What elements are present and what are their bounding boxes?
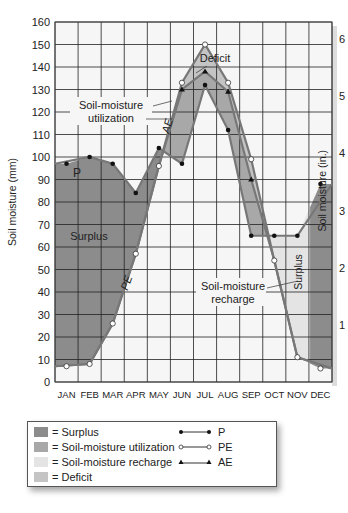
- p-marker: [64, 161, 69, 166]
- svg-text:160: 160: [32, 16, 50, 28]
- pe-marker: [202, 42, 207, 47]
- svg-text:150: 150: [32, 39, 50, 51]
- svg-text:3: 3: [339, 205, 345, 217]
- svg-text:100: 100: [32, 151, 50, 163]
- legend-item-pe: PE: [178, 440, 233, 454]
- svg-text:70: 70: [38, 219, 50, 231]
- svg-text:20: 20: [38, 331, 50, 343]
- svg-text:JUN: JUN: [173, 389, 192, 400]
- legend-item-utilization: = Soil-moisture utilization: [34, 440, 175, 454]
- svg-text:SEP: SEP: [242, 389, 261, 400]
- legend-item-ae: AE: [178, 455, 233, 469]
- svg-text:1: 1: [339, 319, 345, 331]
- svg-text:FEB: FEB: [80, 389, 98, 400]
- p-marker: [203, 83, 208, 88]
- y-axis-right-label: Soil moisture (in.): [316, 150, 328, 232]
- triangle-line-icon: [178, 458, 212, 466]
- legend-label: AE: [218, 456, 233, 468]
- legend-label: PE: [218, 441, 233, 453]
- svg-text:6: 6: [339, 33, 345, 45]
- water-budget-chart: 0102030405060708090100110120130140150160…: [0, 0, 348, 420]
- pe-marker: [64, 364, 69, 369]
- y-axis-label: Soil moisture (mm): [6, 158, 18, 246]
- legend-item-p: P: [178, 425, 225, 439]
- svg-text:60: 60: [38, 241, 50, 253]
- p-marker: [249, 233, 254, 238]
- svg-text:130: 130: [32, 84, 50, 96]
- utilization-swatch: [34, 442, 48, 452]
- p-marker: [295, 233, 300, 238]
- recharge-swatch: [34, 457, 48, 467]
- svg-text:120: 120: [32, 106, 50, 118]
- legend-label: P: [218, 426, 225, 438]
- pe-marker: [87, 361, 92, 366]
- p-marker: [133, 191, 138, 196]
- legend-item-surplus: = Surplus: [34, 425, 99, 439]
- p-marker: [272, 233, 277, 238]
- deficit-swatch: [34, 472, 48, 482]
- annotation: P: [73, 166, 81, 180]
- annotation: Soil-moisture: [201, 280, 265, 292]
- pe-marker: [318, 366, 323, 371]
- pe-marker: [179, 80, 184, 85]
- svg-text:5: 5: [339, 90, 345, 102]
- pe-marker: [226, 80, 231, 85]
- svg-text:90: 90: [38, 174, 50, 186]
- surplus-swatch: [34, 427, 48, 437]
- p-marker: [157, 146, 162, 151]
- svg-text:0: 0: [44, 376, 50, 388]
- pe-marker: [272, 258, 277, 263]
- pe-marker: [133, 251, 138, 256]
- svg-text:MAY: MAY: [149, 389, 170, 400]
- svg-text:MAR: MAR: [102, 389, 123, 400]
- svg-text:140: 140: [32, 61, 50, 73]
- p-marker: [226, 128, 231, 133]
- svg-text:80: 80: [38, 196, 50, 208]
- legend-label: = Deficit: [52, 471, 92, 483]
- legend-label: = Soil-moisture recharge: [52, 456, 172, 468]
- svg-text:JUL: JUL: [197, 389, 214, 400]
- annotation: Surplus: [292, 254, 304, 290]
- svg-text:2: 2: [339, 262, 345, 274]
- annotation: Surplus: [70, 230, 108, 242]
- svg-text:10: 10: [38, 354, 50, 366]
- svg-text:NOV: NOV: [287, 389, 308, 400]
- p-marker: [180, 161, 185, 166]
- svg-text:APR: APR: [126, 389, 146, 400]
- svg-text:4: 4: [339, 147, 345, 159]
- pe-marker: [110, 321, 115, 326]
- svg-text:40: 40: [38, 286, 50, 298]
- annotation: utilization: [88, 112, 134, 124]
- filled-circle-line-icon: [178, 428, 212, 436]
- svg-text:JAN: JAN: [58, 389, 76, 400]
- legend-label: = Soil-moisture utilization: [52, 441, 175, 453]
- svg-text:50: 50: [38, 264, 50, 276]
- pe-marker: [295, 355, 300, 360]
- legend-item-deficit: = Deficit: [34, 470, 92, 484]
- legend-label: = Surplus: [52, 426, 99, 438]
- svg-text:DEC: DEC: [310, 389, 330, 400]
- annotation: Soil-moisture: [79, 99, 143, 111]
- open-circle-line-icon: [178, 443, 212, 451]
- svg-text:110: 110: [32, 129, 50, 141]
- svg-text:OCT: OCT: [264, 389, 284, 400]
- annotation: recharge: [211, 293, 254, 305]
- legend: = Surplus = Soil-moisture utilization = …: [27, 421, 277, 487]
- pe-marker: [156, 163, 161, 168]
- legend-item-recharge: = Soil-moisture recharge: [34, 455, 172, 469]
- annotation: Deficit: [200, 52, 231, 64]
- p-marker: [87, 155, 92, 160]
- pe-marker: [249, 157, 254, 162]
- svg-text:30: 30: [38, 309, 50, 321]
- svg-text:AUG: AUG: [218, 389, 239, 400]
- p-marker: [110, 161, 115, 166]
